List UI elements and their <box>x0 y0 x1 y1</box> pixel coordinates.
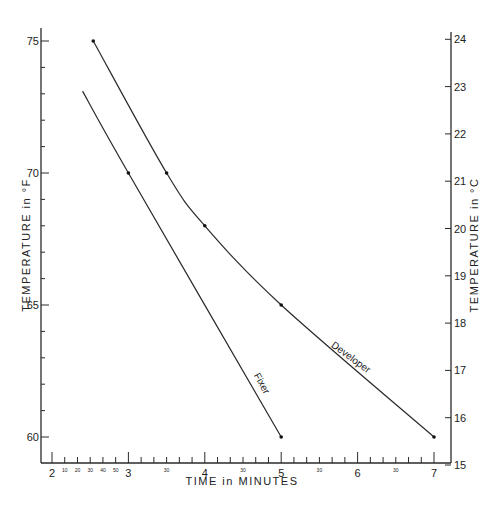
developer-data-point <box>432 435 436 439</box>
x-minor-tick-label: 20 <box>75 467 81 473</box>
x-minor-tick-label: 10 <box>62 467 68 473</box>
y-right-tick-label: 20 <box>454 223 466 235</box>
y-right-tick-label: 19 <box>454 270 466 282</box>
y-right-tick-label: 21 <box>454 175 466 187</box>
developer-data-point <box>279 303 283 307</box>
y-right-tick-label: 22 <box>454 128 466 140</box>
developer-curve-label: Developer <box>329 339 373 375</box>
y-left-tick-label: 75 <box>27 35 39 47</box>
fixer-data-point <box>279 435 283 439</box>
x-tick-label: 2 <box>49 467 55 479</box>
y-left-tick-label: 60 <box>27 431 39 443</box>
fixer-data-point <box>127 171 131 175</box>
x-tick-label: 3 <box>125 467 131 479</box>
y-right-tick-label: 15 <box>454 459 466 471</box>
x-minor-tick-label: 30 <box>393 467 399 473</box>
axes: 6065707515161718192021222324234567102030… <box>27 28 467 479</box>
developer-data-point <box>91 39 95 43</box>
y-right-tick-label: 23 <box>454 81 466 93</box>
y-right-tick-label: 18 <box>454 317 466 329</box>
y-axis-title-right: TEMPERATURE in °C <box>468 178 480 313</box>
x-minor-tick-label: 30 <box>164 467 170 473</box>
y-right-tick-label: 17 <box>454 364 466 376</box>
chart: 6065707515161718192021222324234567102030… <box>0 0 500 509</box>
y-right-tick-label: 16 <box>454 412 466 424</box>
y-axis-title-left: TEMPERATURE in °F <box>20 178 32 312</box>
x-axis-title: TIME in MINUTES <box>186 475 299 487</box>
developer-data-point <box>165 171 169 175</box>
x-minor-tick-label: 30 <box>240 467 246 473</box>
x-tick-label: 6 <box>355 467 361 479</box>
x-minor-tick-label: 50 <box>113 467 119 473</box>
x-minor-tick-label: 30 <box>317 467 323 473</box>
y-right-tick-label: 24 <box>454 33 466 45</box>
y-left-tick-label: 70 <box>27 167 39 179</box>
x-minor-tick-label: 30 <box>87 467 93 473</box>
developer-data-point <box>203 224 207 228</box>
x-minor-tick-label: 40 <box>100 467 106 473</box>
x-tick-label: 7 <box>431 467 437 479</box>
fixer-curve <box>83 91 282 437</box>
